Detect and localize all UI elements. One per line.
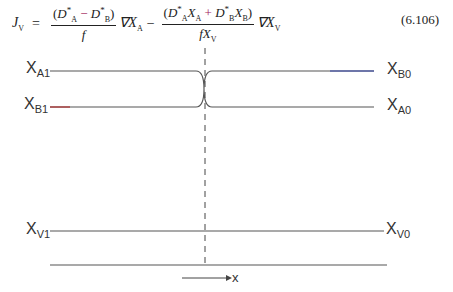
label-xb1: XB1 xyxy=(24,95,48,115)
lower-concentration-line xyxy=(50,89,374,107)
diffusion-couple-diagram xyxy=(0,0,453,292)
x-axis-label: x xyxy=(232,270,239,285)
label-xa0: XA0 xyxy=(387,96,411,116)
label-xa1: XA1 xyxy=(26,59,50,79)
label-xv1: XV1 xyxy=(26,220,50,240)
upper-concentration-line xyxy=(50,71,374,89)
label-xb0: XB0 xyxy=(387,60,411,80)
label-xv0: XV0 xyxy=(386,220,410,240)
